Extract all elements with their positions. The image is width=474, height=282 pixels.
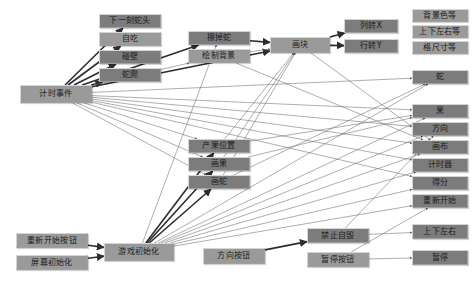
node-label: 行转Y	[360, 42, 382, 50]
node-row_to_y[interactable]: 行转Y	[344, 39, 398, 53]
edge-timer_event-to-var_fruit	[92, 96, 412, 110]
node-screen_init[interactable]: 屏幕初始化	[16, 255, 88, 270]
node-next_head[interactable]: 下一刻蛇头	[99, 14, 161, 28]
node-var_direction[interactable]: 方向	[412, 122, 468, 136]
node-label: 屏幕初始化	[31, 259, 73, 267]
node-draw_bg[interactable]: 绘制背景	[188, 49, 250, 63]
node-label: 上下左右等	[419, 28, 461, 36]
node-var_canvas[interactable]: 画布	[412, 140, 468, 154]
node-label: 方向	[432, 125, 449, 133]
node-var_score[interactable]: 得分	[412, 176, 468, 190]
node-erase_snake[interactable]: 擦掉蛇	[188, 31, 250, 45]
node-label: 绘制背景	[202, 52, 235, 60]
node-timer_event[interactable]: 计时事件	[20, 85, 92, 103]
node-label: 画布	[432, 143, 449, 151]
edge-timer_event-to-var_direction	[92, 97, 412, 126]
node-pause_btn[interactable]: 暂停按钮	[307, 252, 369, 267]
node-label: 自吃	[122, 35, 139, 43]
node-label: 画果	[211, 160, 228, 168]
node-var_fruit[interactable]: 果	[412, 104, 468, 118]
node-draw_block[interactable]: 画块	[270, 37, 330, 53]
node-label: 下一刻蛇头	[109, 17, 151, 25]
node-label: 暂停按钮	[321, 256, 354, 264]
node-label: 碰壁	[122, 53, 139, 61]
node-label: 得分	[432, 179, 449, 187]
node-self_eat[interactable]: 自吃	[99, 32, 161, 46]
node-col_to_x[interactable]: 列转X	[344, 19, 398, 33]
node-label: 格尺寸等	[423, 44, 456, 52]
diagram-canvas: 计时事件下一刻蛇头自吃碰壁蛇爬擦掉蛇绘制背景画块列转X行转Y背景色等上下左右等格…	[0, 0, 474, 282]
edge-screen_init-to-game_init	[88, 256, 104, 258]
node-no_suicide[interactable]: 禁止自毁	[307, 228, 369, 243]
edge-erase_snake-to-draw_block	[250, 41, 270, 43]
edge-timer_event-to-draw_snake	[73, 103, 206, 175]
node-label: 重新开始按钮	[27, 237, 77, 245]
node-label: 重新开始	[423, 197, 456, 205]
node-var_restart[interactable]: 重新开始	[412, 194, 468, 208]
node-label: 列转X	[360, 22, 382, 30]
node-snake_crawl[interactable]: 蛇爬	[99, 68, 161, 82]
node-label: 画块	[292, 41, 309, 49]
node-label: 禁止自毁	[321, 232, 354, 240]
node-var_snake[interactable]: 蛇	[412, 70, 468, 84]
edge-timer_event-to-fruit_pos	[84, 103, 197, 139]
edge-dir_btn-to-no_suicide	[265, 242, 307, 250]
node-label: 蛇爬	[122, 71, 139, 79]
node-fruit_pos[interactable]: 产果位置	[188, 139, 250, 153]
edge-no_suicide-to-updown_lr	[369, 233, 412, 235]
node-label: 蛇	[436, 73, 444, 81]
node-label: 产果位置	[202, 142, 235, 150]
node-updown_lr[interactable]: 上下左右	[412, 224, 468, 239]
node-label: 上下左右	[423, 228, 456, 236]
node-restart_btn[interactable]: 重新开始按钮	[16, 233, 88, 248]
node-label: 擦掉蛇	[207, 34, 232, 42]
node-draw_fruit[interactable]: 画果	[188, 157, 250, 171]
node-hit_wall[interactable]: 碰壁	[99, 50, 161, 64]
node-bg_color_etc[interactable]: 背景色等	[412, 9, 468, 22]
node-draw_snake[interactable]: 画蛇	[188, 175, 250, 189]
edge-pause_btn-to-pause	[369, 258, 412, 259]
edge-restart_btn-to-game_init	[88, 245, 104, 247]
node-label: 方向按钮	[217, 252, 250, 260]
node-label: 游戏初始化	[118, 248, 160, 256]
node-label: 暂停	[432, 254, 449, 262]
node-var_timer[interactable]: 计时器	[412, 158, 468, 172]
edge-game_init-to-var_score	[174, 189, 412, 244]
node-label: 背景色等	[423, 12, 456, 20]
edge-draw_snake-to-var_snake	[234, 84, 426, 175]
node-label: 画蛇	[211, 178, 228, 186]
node-updown_etc[interactable]: 上下左右等	[412, 25, 468, 38]
node-cell_size_etc[interactable]: 格尺寸等	[412, 41, 468, 54]
node-label: 计时事件	[39, 90, 72, 98]
edge-draw_block-to-col_to_x	[330, 33, 345, 37]
node-label: 计时器	[428, 161, 453, 169]
node-label: 果	[436, 107, 444, 115]
node-pause[interactable]: 暂停	[412, 250, 468, 265]
edge-timer_event-to-draw_fruit	[77, 103, 203, 157]
node-dir_btn[interactable]: 方向按钮	[203, 248, 265, 264]
edge-game_init-to-var_restart	[174, 206, 412, 246]
node-game_init[interactable]: 游戏初始化	[104, 243, 174, 261]
edge-fruit_pos-to-draw_block	[225, 53, 294, 139]
